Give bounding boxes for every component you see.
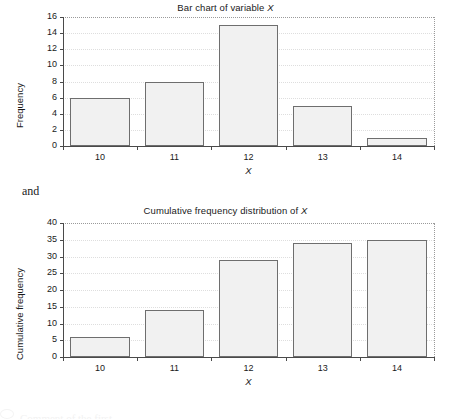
x-axis-line bbox=[63, 146, 435, 147]
plot-top-border bbox=[63, 17, 434, 18]
x-axis-tick-mark bbox=[360, 147, 361, 150]
chart2-plot-area: 05101520253035401011121314X bbox=[0, 205, 451, 395]
y-axis-tick-label: 10 bbox=[33, 59, 57, 69]
connector-and-text: and bbox=[22, 184, 39, 199]
x-axis-tick-mark bbox=[434, 358, 435, 361]
x-axis-tick-mark bbox=[286, 147, 287, 150]
y-axis-tick-label: 6 bbox=[33, 92, 57, 102]
x-axis-title: X bbox=[63, 376, 434, 387]
y-axis-tick-label: 5 bbox=[33, 334, 57, 344]
plot-top-border bbox=[63, 223, 434, 224]
y-axis-tick-label: 14 bbox=[33, 27, 57, 37]
y-axis-tick-label: 12 bbox=[33, 43, 57, 53]
bar bbox=[145, 310, 204, 357]
bar bbox=[367, 138, 426, 146]
x-axis-title: X bbox=[63, 165, 434, 176]
y-axis-line bbox=[63, 17, 64, 147]
bar bbox=[70, 98, 129, 146]
x-axis-tick-mark bbox=[211, 358, 212, 361]
x-axis-tick-mark bbox=[434, 147, 435, 150]
x-axis-line bbox=[63, 357, 435, 358]
y-axis-tick-label: 8 bbox=[33, 76, 57, 86]
bar-chart-cumulative: Cumulative frequency distribution of X C… bbox=[0, 205, 451, 395]
x-axis-tick-label: 13 bbox=[303, 152, 343, 162]
plot-right-border bbox=[434, 223, 435, 357]
y-axis-tick-label: 40 bbox=[33, 217, 57, 227]
x-axis-tick-label: 12 bbox=[229, 363, 269, 373]
footer-bullet-decoration bbox=[0, 409, 14, 419]
y-axis-tick-label: 25 bbox=[33, 267, 57, 277]
footer-cutoff-text: Comment of the first... bbox=[20, 412, 120, 419]
x-axis-tick-mark bbox=[137, 358, 138, 361]
bar bbox=[219, 25, 278, 146]
bar bbox=[219, 260, 278, 357]
x-axis-tick-label: 10 bbox=[80, 363, 120, 373]
x-axis-tick-label: 13 bbox=[303, 363, 343, 373]
x-axis-tick-mark bbox=[63, 147, 64, 150]
y-axis-tick-label: 35 bbox=[33, 234, 57, 244]
x-axis-tick-mark bbox=[63, 358, 64, 361]
y-axis-tick-label: 0 bbox=[33, 140, 57, 150]
bar bbox=[293, 243, 352, 357]
y-axis-tick-label: 15 bbox=[33, 301, 57, 311]
y-axis-tick-label: 30 bbox=[33, 251, 57, 261]
y-axis-line bbox=[63, 223, 64, 358]
x-axis-tick-mark bbox=[137, 147, 138, 150]
bar bbox=[293, 106, 352, 146]
bar-chart-frequency: Bar chart of variable X Frequency 024681… bbox=[0, 0, 451, 180]
y-axis-tick-label: 0 bbox=[33, 351, 57, 361]
x-axis-tick-mark bbox=[286, 358, 287, 361]
y-axis-tick-label: 20 bbox=[33, 284, 57, 294]
y-axis-tick-label: 4 bbox=[33, 108, 57, 118]
x-axis-tick-label: 11 bbox=[154, 363, 194, 373]
y-axis-tick-label: 16 bbox=[33, 11, 57, 21]
x-axis-tick-mark bbox=[360, 358, 361, 361]
bar bbox=[145, 82, 204, 147]
x-axis-tick-mark bbox=[211, 147, 212, 150]
bar bbox=[367, 240, 426, 357]
x-axis-tick-label: 14 bbox=[377, 363, 417, 373]
y-axis-tick-label: 10 bbox=[33, 318, 57, 328]
x-axis-tick-label: 10 bbox=[80, 152, 120, 162]
x-axis-tick-label: 14 bbox=[377, 152, 417, 162]
bar bbox=[70, 337, 129, 357]
chart1-plot-area: 02468101214161011121314X bbox=[0, 0, 451, 180]
x-axis-tick-label: 11 bbox=[154, 152, 194, 162]
y-axis-tick-label: 2 bbox=[33, 124, 57, 134]
plot-right-border bbox=[434, 17, 435, 146]
x-axis-tick-label: 12 bbox=[229, 152, 269, 162]
